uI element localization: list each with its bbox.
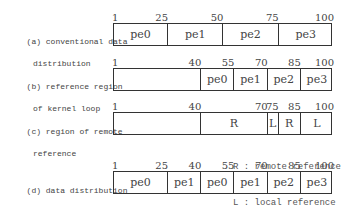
row-c-segment: R	[200, 113, 266, 134]
row-b-tick: 40	[189, 58, 202, 68]
row-c-segment	[114, 113, 200, 134]
row-c-segment: L	[267, 113, 278, 134]
row-d-tick: 40	[189, 161, 202, 171]
row-c-tick: 100	[315, 102, 334, 112]
legend-local: L : local reference	[233, 197, 341, 206]
row-d-segment: pe0	[200, 172, 233, 193]
row-c-tick: 75	[266, 102, 279, 112]
row-a-segment: pe3	[278, 24, 333, 45]
row-a-tick: 25	[155, 13, 168, 23]
row-b-label-line1: (b) reference region	[27, 82, 123, 91]
row-c-segment: L	[300, 113, 333, 134]
row-a-segment: pe2	[222, 24, 277, 45]
row-b-segment: pe2	[267, 69, 300, 90]
row-b-segment	[114, 69, 200, 90]
row-a-tick: 75	[266, 13, 279, 23]
row-b-segment: pe0	[200, 69, 233, 90]
row-a-segment: pe0	[114, 24, 167, 45]
row-d-tick: 25	[155, 161, 168, 171]
row-a-label-line2: distribution	[17, 58, 127, 69]
row-b-tick: 100	[315, 58, 334, 68]
row-c-tick: 1	[112, 102, 118, 112]
legend: R : remote reference L : local reference	[233, 137, 341, 206]
row-c-label-line1: (c) region of remote	[27, 127, 123, 136]
row-d-segment: pe0	[114, 172, 167, 193]
row-d-tick: 1	[112, 161, 118, 171]
row-a-tick: 1	[112, 13, 118, 23]
row-b-tick: 70	[255, 58, 268, 68]
row-b-tick: 1	[112, 58, 118, 68]
row-b-segment: pe3	[300, 69, 333, 90]
row-a-bar: pe0pe1pe2pe3	[113, 23, 332, 46]
row-c-segment: R	[278, 113, 300, 134]
row-c-tick: 85	[288, 102, 301, 112]
row-b-tick: 55	[222, 58, 235, 68]
row-c-bar: RLRL	[113, 112, 332, 135]
row-c-label-line2: reference	[17, 148, 123, 159]
row-c-label: (c) region of remote reference	[17, 115, 123, 170]
row-c-tick: 40	[189, 102, 202, 112]
row-b-segment: pe1	[233, 69, 266, 90]
row-a-segment: pe1	[167, 24, 222, 45]
row-b-bar: pe0pe1pe2pe3	[113, 68, 332, 91]
row-a-tick: 50	[211, 13, 224, 23]
row-a-tick: 100	[315, 13, 334, 23]
row-b-tick: 85	[288, 58, 301, 68]
row-d-segment: pe1	[167, 172, 200, 193]
row-b-label-line2: of kernel loop	[17, 103, 123, 114]
row-d-label: (d) data distribution by our method	[17, 174, 127, 206]
legend-remote: R : remote reference	[233, 161, 341, 173]
